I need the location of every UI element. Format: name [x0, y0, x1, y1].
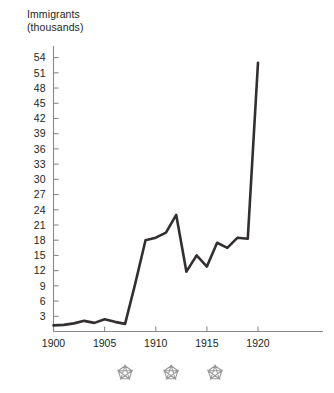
- y-axis-tick-label: 24: [34, 204, 46, 216]
- x-axis-tick-label: 1910: [144, 337, 168, 349]
- chart-canvas: 3691215182124273033363942454851541900190…: [0, 0, 334, 393]
- y-axis-tick-label: 12: [34, 264, 46, 276]
- y-axis-tick-label: 54: [34, 51, 46, 63]
- y-axis-tick-label: 30: [34, 173, 46, 185]
- data-series-line: [54, 63, 259, 326]
- y-axis-tick-label: 3: [40, 310, 46, 322]
- star-icon: [164, 366, 178, 379]
- y-axis-tick-label: 33: [34, 158, 46, 170]
- y-axis-tick-label: 21: [34, 219, 46, 231]
- y-axis-tick-label: 39: [34, 127, 46, 139]
- star-icon: [118, 366, 132, 379]
- immigrants-line-chart: Immigrants(thousands) 369121518212427303…: [0, 0, 334, 393]
- x-axis-tick-label: 1915: [195, 337, 219, 349]
- star-icon: [208, 366, 222, 379]
- y-axis-tick-label: 18: [34, 234, 46, 246]
- x-axis-tick-label: 1900: [42, 337, 66, 349]
- y-axis-tick-label: 15: [34, 249, 46, 261]
- y-axis-tick-label: 42: [34, 112, 46, 124]
- y-axis-tick-label: 36: [34, 143, 46, 155]
- x-axis-tick-label: 1920: [246, 337, 270, 349]
- y-axis-tick-label: 48: [34, 82, 46, 94]
- y-axis-tick-label: 51: [34, 67, 46, 79]
- y-axis-tick-label: 45: [34, 97, 46, 109]
- y-axis-tick-label: 9: [40, 280, 46, 292]
- y-axis-tick-label: 27: [34, 188, 46, 200]
- y-axis-tick-label: 6: [40, 295, 46, 307]
- x-axis-tick-label: 1905: [93, 337, 117, 349]
